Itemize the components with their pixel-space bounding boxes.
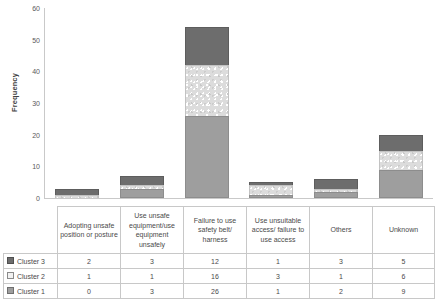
y-tick-40: 40 xyxy=(14,68,40,75)
bar-segment-cluster-3 xyxy=(185,27,229,65)
y-tick-50: 50 xyxy=(14,36,40,43)
bar-segment-cluster-1 xyxy=(120,189,164,199)
table-value-cell: 2 xyxy=(58,254,121,269)
category-header-cell: Use unsuitable access/ failure to use ac… xyxy=(247,207,310,254)
category-header-cell: Adopting unsafe position or posture xyxy=(58,207,121,254)
y-tick-0: 0 xyxy=(14,195,40,202)
bar-stack xyxy=(120,176,164,198)
table-value-cell: 1 xyxy=(58,269,121,284)
bar-stack xyxy=(55,189,99,198)
table-value-cell: 0 xyxy=(58,284,121,299)
table-value-cell: 3 xyxy=(247,269,310,284)
table-value-cell: 1 xyxy=(247,284,310,299)
legend-entry[interactable]: Cluster 1 xyxy=(4,284,58,299)
table-corner-cell xyxy=(4,207,58,254)
bar-segment-cluster-3 xyxy=(120,176,164,186)
table-value-cell: 12 xyxy=(184,254,247,269)
table-row: Cluster 32312135 xyxy=(4,254,435,269)
bar-segment-cluster-1 xyxy=(249,195,293,198)
category-header-cell: Others xyxy=(310,207,373,254)
table-row: Cluster 10326129 xyxy=(4,284,435,299)
data-table: Adopting unsafe position or postureUse u… xyxy=(3,206,435,299)
y-tick-20: 20 xyxy=(14,131,40,138)
legend-entry[interactable]: Cluster 2 xyxy=(4,269,58,284)
table-value-cell: 3 xyxy=(121,254,184,269)
x-axis-baseline xyxy=(44,198,433,199)
table-value-cell: 6 xyxy=(373,269,435,284)
chart-plot-area: Frequency 60 50 40 30 20 10 0 xyxy=(0,0,437,206)
bar-column xyxy=(110,8,175,198)
bar-segment-cluster-2 xyxy=(55,195,99,198)
bar-column xyxy=(174,8,239,198)
dark-swatch-icon xyxy=(7,257,14,264)
bar-segment-cluster-2 xyxy=(379,151,423,170)
category-header-cell: Failure to use safety belt/ harness xyxy=(184,207,247,254)
bar-stack xyxy=(314,179,358,198)
y-tick-10: 10 xyxy=(14,163,40,170)
bar-column xyxy=(304,8,369,198)
bar-series-group xyxy=(45,8,433,198)
table-value-cell: 1 xyxy=(121,269,184,284)
bar-segment-cluster-1 xyxy=(379,170,423,199)
table-value-cell: 26 xyxy=(184,284,247,299)
bar-segment-cluster-2 xyxy=(185,65,229,116)
mid-swatch-icon xyxy=(7,287,14,294)
category-header-cell: Unknown xyxy=(373,207,435,254)
bar-segment-cluster-3 xyxy=(314,179,358,189)
legend-label: Cluster 3 xyxy=(17,258,45,265)
figure-container: Frequency 60 50 40 30 20 10 0 Adopting u… xyxy=(0,0,437,305)
bar-segment-cluster-1 xyxy=(314,192,358,198)
table-value-cell: 5 xyxy=(373,254,435,269)
table-header-row: Adopting unsafe position or postureUse u… xyxy=(4,207,435,254)
table-value-cell: 1 xyxy=(310,269,373,284)
table-value-cell: 1 xyxy=(247,254,310,269)
category-header-cell: Use unsafe equipment/use equipment unsaf… xyxy=(121,207,184,254)
bar-stack xyxy=(185,27,229,198)
table-value-cell: 9 xyxy=(373,284,435,299)
bar-column xyxy=(45,8,110,198)
bar-segment-cluster-3 xyxy=(379,135,423,151)
bar-column xyxy=(239,8,304,198)
y-tick-60: 60 xyxy=(14,5,40,12)
legend-label: Cluster 1 xyxy=(17,288,45,295)
bar-segment-cluster-1 xyxy=(185,116,229,198)
legend-entry[interactable]: Cluster 3 xyxy=(4,254,58,269)
bar-column xyxy=(368,8,433,198)
bar-stack xyxy=(249,182,293,198)
table-value-cell: 2 xyxy=(310,284,373,299)
light-swatch-icon xyxy=(7,272,14,279)
legend-label: Cluster 2 xyxy=(17,273,45,280)
y-tick-30: 30 xyxy=(14,100,40,107)
y-axis-tick-labels: 60 50 40 30 20 10 0 xyxy=(14,0,40,206)
bar-segment-cluster-2 xyxy=(249,185,293,195)
bar-stack xyxy=(379,135,423,198)
table-value-cell: 3 xyxy=(121,284,184,299)
table-value-cell: 16 xyxy=(184,269,247,284)
table-row: Cluster 21116316 xyxy=(4,269,435,284)
table-value-cell: 3 xyxy=(310,254,373,269)
